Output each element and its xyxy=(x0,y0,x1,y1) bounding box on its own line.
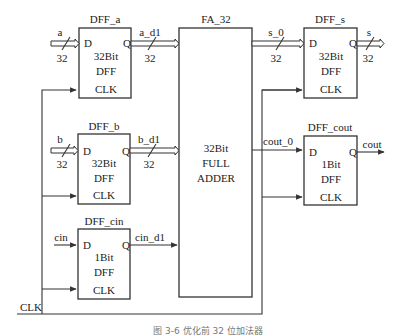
signal-s-0-width: 32 xyxy=(271,52,282,64)
fa-32-line2: FULL xyxy=(202,157,230,169)
dff-cin-d-port: D xyxy=(83,239,91,251)
signal-cout-0: cout_0 xyxy=(263,135,293,147)
dff-b-title: DFF_b xyxy=(88,120,120,132)
dff-a-clk-port: CLK xyxy=(95,83,117,95)
dff-cin-type: DFF xyxy=(94,266,114,278)
signal-b-d1: b_d1 xyxy=(138,133,160,145)
dff-b-width: 32Bit xyxy=(92,157,116,169)
dff-s-clk-port: CLK xyxy=(320,83,342,95)
signal-cin-d1: cin_d1 xyxy=(135,231,165,243)
dff-cin-width: 1Bit xyxy=(95,251,114,263)
signal-b-width: 32 xyxy=(57,158,68,170)
dff-a-d-port: D xyxy=(84,37,92,49)
signal-s-width: 32 xyxy=(363,52,374,64)
fa-32-block: FA_32 32Bit FULL ADDER xyxy=(179,13,252,297)
wire-cin: cin xyxy=(54,231,76,245)
dff-cout-clk-port: CLK xyxy=(320,191,342,203)
fa-32-title: FA_32 xyxy=(201,13,231,25)
bus-a-d1: a_d1 32 xyxy=(131,26,179,64)
dff-b-block: DFF_b D Q 32Bit DFF CLK xyxy=(78,120,130,204)
adder-block-diagram: CLK DFF_a D Q 32Bit DFF CLK a 32 a_d1 32… xyxy=(0,0,396,336)
dff-a-title: DFF_a xyxy=(90,13,121,25)
signal-a-d1-width: 32 xyxy=(145,52,156,64)
signal-s-0: s_0 xyxy=(268,26,284,38)
dff-cout-q-port: Q xyxy=(349,146,357,158)
dff-a-type: DFF xyxy=(96,65,116,77)
signal-cin: cin xyxy=(54,231,68,243)
fa-32-line1: 32Bit xyxy=(204,142,228,154)
fa-32-line3: ADDER xyxy=(197,172,236,184)
bus-s: s 32 xyxy=(357,26,384,64)
dff-cin-block: DFF_cin D Q 1Bit DFF CLK xyxy=(78,215,130,299)
dff-s-d-port: D xyxy=(309,37,317,49)
bus-b: b 32 xyxy=(51,133,78,170)
dff-cout-width: 1Bit xyxy=(322,158,341,170)
dff-b-d-port: D xyxy=(83,145,91,157)
dff-s-q-port: Q xyxy=(349,37,357,49)
signal-cout: cout xyxy=(363,138,382,150)
dff-a-q-port: Q xyxy=(123,37,131,49)
dff-b-q-port: Q xyxy=(122,145,130,157)
signal-a-width: 32 xyxy=(57,52,68,64)
dff-b-type: DFF xyxy=(94,172,114,184)
dff-cout-d-port: D xyxy=(309,146,317,158)
signal-b: b xyxy=(57,133,63,145)
dff-s-width: 32Bit xyxy=(319,50,343,62)
wire-cout-0: cout_0 xyxy=(252,135,302,150)
wire-cout: cout xyxy=(357,138,384,152)
signal-a: a xyxy=(58,26,63,38)
dff-s-type: DFF xyxy=(321,65,341,77)
dff-a-block: DFF_a D Q 32Bit DFF CLK xyxy=(79,13,131,98)
dff-s-block: DFF_s D Q 32Bit DFF CLK xyxy=(304,13,357,98)
dff-s-title: DFF_s xyxy=(315,13,345,25)
dff-cout-block: DFF_cout D Q 1Bit DFF CLK xyxy=(304,121,357,205)
dff-cin-clk-port: CLK xyxy=(93,284,115,296)
clk-network: CLK xyxy=(17,90,302,314)
dff-cout-title: DFF_cout xyxy=(308,121,353,133)
bus-s-0: s_0 32 xyxy=(252,26,304,64)
dff-cin-q-port: Q xyxy=(122,239,130,251)
dff-cout-type: DFF xyxy=(321,173,341,185)
figure-caption: 图 3-6 优化前 32 位加法器 xyxy=(153,325,263,336)
signal-b-d1-width: 32 xyxy=(144,158,155,170)
bus-b-d1: b_d1 32 xyxy=(130,133,179,170)
dff-b-clk-port: CLK xyxy=(93,189,115,201)
signal-s: s xyxy=(367,26,371,38)
bus-a: a 32 xyxy=(51,26,79,64)
dff-cin-title: DFF_cin xyxy=(84,215,124,227)
wire-cin-d1: cin_d1 xyxy=(130,231,177,245)
dff-a-width: 32Bit xyxy=(94,50,118,62)
signal-a-d1: a_d1 xyxy=(139,26,160,38)
clk-label: CLK xyxy=(20,301,42,313)
